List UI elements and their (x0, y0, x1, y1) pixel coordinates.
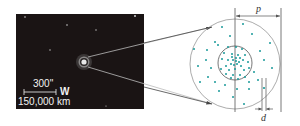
particle-dots (193, 23, 273, 105)
scale-angle-label: 300" (33, 78, 53, 89)
scale-distance-label: 150,000 km (18, 96, 70, 107)
d-label: d (261, 112, 266, 123)
p-label: p (256, 3, 261, 14)
projection-line-bottom (88, 67, 212, 104)
diagram-graphics (0, 0, 300, 126)
